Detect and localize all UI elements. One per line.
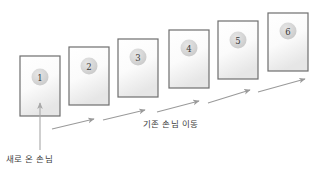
room-card-rect (218, 21, 258, 79)
room-card: 3 (118, 39, 158, 97)
move-arrow (208, 90, 250, 103)
room-card-number: 5 (235, 36, 240, 46)
move-arrow (157, 101, 199, 112)
move-arrow (103, 110, 145, 120)
diagram-canvas: 123456 기존 손님 이동 새로 온 손님 (0, 0, 324, 178)
room-card: 2 (69, 47, 109, 105)
room-card: 5 (218, 21, 258, 79)
label-existing-guest-move: 기존 손님 이동 (143, 117, 198, 129)
move-arrow (52, 119, 94, 129)
room-card-number: 4 (186, 44, 191, 54)
room-card-number: 6 (285, 27, 290, 37)
room-card-rect (69, 47, 109, 105)
room-card-number: 2 (86, 62, 91, 72)
label-new-guest: 새로 온 손님 (6, 152, 53, 164)
move-arrow (258, 79, 305, 92)
room-card: 4 (169, 30, 209, 88)
cards-group: 123456 (20, 13, 308, 116)
room-card: 6 (268, 13, 308, 71)
room-card-rect (118, 39, 158, 97)
room-card-rect (268, 13, 308, 71)
room-card-number: 3 (135, 53, 140, 63)
room-card-number: 1 (37, 73, 42, 83)
room-card-rect (169, 30, 209, 88)
